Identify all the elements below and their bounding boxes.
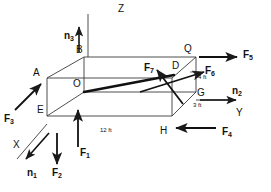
force-label-F1: F1 bbox=[80, 148, 90, 158]
dimension-label-12ft: 12 ft bbox=[100, 127, 112, 133]
axis-label-y: Y bbox=[236, 108, 243, 118]
dimension-label-3ft: 3 ft bbox=[193, 102, 201, 108]
axis-label-z: Z bbox=[118, 4, 124, 14]
dimension-label-4ft: 4 ft bbox=[198, 74, 206, 80]
force-label-F6: F6 bbox=[205, 66, 215, 76]
unit-vector-label-n2: n2 bbox=[232, 86, 242, 96]
n1-arrow bbox=[26, 133, 49, 159]
force-label-F2: F2 bbox=[52, 168, 62, 178]
free-body-diagram-figure: Z Y X n3 n2 n1 F1 F2 F3 F4 F5 F6 F7 A B … bbox=[0, 0, 271, 192]
vertex-label-E: E bbox=[37, 105, 44, 115]
unit-vector-label-n1: n1 bbox=[27, 168, 37, 178]
vertex-label-D: D bbox=[172, 61, 179, 71]
vertex-label-G: G bbox=[197, 88, 205, 98]
axis-label-x: X bbox=[13, 140, 20, 150]
diagram-canvas bbox=[0, 0, 271, 192]
force-label-F4: F4 bbox=[222, 127, 232, 137]
unit-vector-label-n3: n3 bbox=[64, 31, 74, 41]
box-bottom-face-edges bbox=[47, 92, 196, 116]
vertex-label-O: O bbox=[73, 79, 81, 89]
force-label-F5: F5 bbox=[243, 50, 253, 60]
force-label-F3: F3 bbox=[4, 114, 14, 124]
vertex-label-B: B bbox=[76, 45, 83, 55]
force-label-F7: F7 bbox=[144, 63, 154, 73]
vertex-label-A: A bbox=[33, 68, 40, 78]
vertex-label-Q: Q bbox=[184, 44, 192, 54]
vertex-label-H: H bbox=[160, 126, 167, 136]
